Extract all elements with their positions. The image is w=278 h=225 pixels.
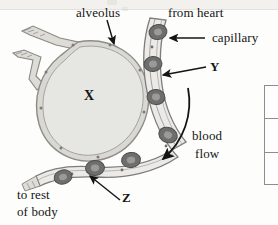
table-rule	[265, 152, 278, 153]
side-table-cropped	[264, 85, 278, 185]
label-alveolus: alveolus	[76, 6, 120, 20]
bronchiole-lower	[13, 50, 44, 90]
table-rule	[265, 118, 278, 119]
label-capillary: capillary	[212, 31, 258, 45]
label-to-rest-line1: to rest	[17, 188, 50, 202]
arrow-y	[163, 67, 206, 75]
diagram-canvas: alveolus from heart capillary Y blood fl…	[0, 0, 278, 225]
label-from-heart: from heart	[168, 6, 224, 20]
arrow-z	[90, 176, 120, 200]
label-marker-y: Y	[210, 60, 220, 74]
label-to-rest-line2: of body	[17, 205, 58, 219]
bronchiole-upper	[22, 26, 78, 49]
label-blood-flow-line2: flow	[195, 147, 219, 161]
label-blood-flow-line1: blood	[192, 129, 222, 143]
label-marker-x: X	[84, 89, 94, 103]
label-marker-z: Z	[122, 191, 131, 205]
arrow-alveolus	[107, 20, 114, 44]
